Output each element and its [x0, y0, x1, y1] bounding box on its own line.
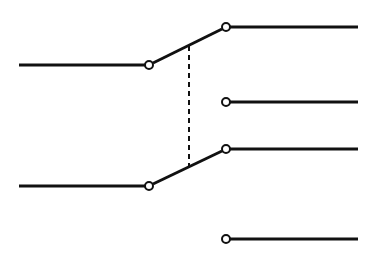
pole-1-switch-arm	[153, 29, 222, 63]
throw-2b-contact-terminal	[222, 235, 230, 243]
throw-2a-contact-terminal	[222, 145, 230, 153]
throw-1b-contact-terminal	[222, 98, 230, 106]
pole-2-switch-arm	[153, 151, 222, 184]
dpdt-switch-diagram	[0, 0, 385, 259]
throw-1a-contact-terminal	[222, 23, 230, 31]
pole-1-pivot-terminal	[145, 61, 153, 69]
pole-2	[19, 145, 358, 243]
pole-2-pivot-terminal	[145, 182, 153, 190]
